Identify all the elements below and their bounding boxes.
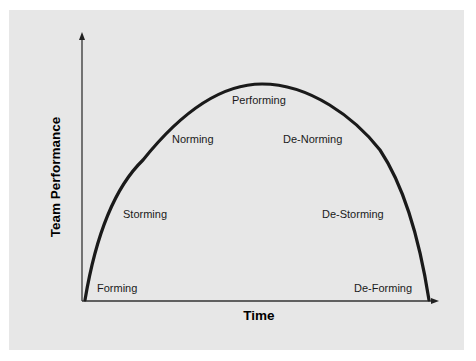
stage-label-storming: Storming	[123, 208, 167, 220]
performance-curve	[85, 84, 429, 300]
y-axis-label: Team Performance	[48, 116, 63, 237]
x-axis-arrow-icon	[431, 298, 439, 304]
stage-label-forming: Forming	[97, 282, 137, 294]
stage-label-de-storming: De-Storming	[322, 208, 384, 220]
stage-label-norming: Norming	[172, 133, 214, 145]
stage-label-performing: Performing	[232, 94, 286, 106]
x-axis-label: Time	[243, 308, 275, 323]
y-axis-arrow-icon	[79, 32, 85, 40]
stage-label-de-norming: De-Norming	[283, 133, 342, 145]
stage-label-de-forming: De-Forming	[354, 282, 412, 294]
performance-curve-diagram: Forming Storming Norming Performing De-N…	[0, 0, 476, 361]
